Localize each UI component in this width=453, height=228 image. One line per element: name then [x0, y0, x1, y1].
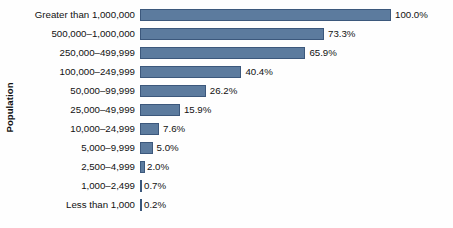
bar-row: 2,500–4,9992.0%	[18, 157, 453, 176]
bar-zone: 5.0%	[140, 138, 453, 157]
category-label: Greater than 1,000,000	[18, 5, 140, 24]
category-label: 500,000–1,000,000	[18, 24, 140, 43]
bar-value-label: 15.9%	[180, 100, 211, 119]
bar-zone: 0.2%	[140, 195, 453, 214]
category-label: 1,000–2,499	[18, 176, 140, 195]
bar-value-label: 7.6%	[159, 119, 185, 138]
bar	[140, 104, 180, 116]
bar	[140, 9, 391, 21]
bar-row: 5,000–9,9995.0%	[18, 138, 453, 157]
bar-value-label: 0.2%	[142, 195, 166, 214]
bar-value-label: 0.7%	[142, 176, 166, 195]
bar-row: 100,000–249,99940.4%	[18, 62, 453, 81]
bar-row: 1,000–2,4990.7%	[18, 176, 453, 195]
category-label: 10,000–24,999	[18, 119, 140, 138]
bar-value-label: 73.3%	[324, 24, 355, 43]
category-label: 5,000–9,999	[18, 138, 140, 157]
bar-zone: 15.9%	[140, 100, 453, 119]
bar	[140, 142, 153, 154]
bar-row: 50,000–99,99926.2%	[18, 81, 453, 100]
bar-row: Less than 1,0000.2%	[18, 195, 453, 214]
y-axis-title-label: Population	[4, 82, 15, 132]
bar-value-label: 5.0%	[153, 138, 179, 157]
bar-zone: 100.0%	[140, 5, 453, 24]
bar-value-label: 40.4%	[241, 62, 272, 81]
bar-row: 250,000–499,99965.9%	[18, 43, 453, 62]
bar-zone: 2.0%	[140, 157, 453, 176]
bar-row: 10,000–24,9997.6%	[18, 119, 453, 138]
bar-zone: 65.9%	[140, 43, 453, 62]
bar-value-label: 65.9%	[305, 43, 336, 62]
bar	[140, 28, 324, 40]
plot-area: Greater than 1,000,000100.0%500,000–1,00…	[18, 5, 453, 223]
bar-value-label: 2.0%	[145, 157, 169, 176]
category-label: 100,000–249,999	[18, 62, 140, 81]
bar	[140, 66, 241, 78]
bar-row: Greater than 1,000,000100.0%	[18, 5, 453, 24]
bar-zone: 73.3%	[140, 24, 453, 43]
category-label: Less than 1,000	[18, 195, 140, 214]
category-label: 2,500–4,999	[18, 157, 140, 176]
bar-zone: 7.6%	[140, 119, 453, 138]
bar	[140, 123, 159, 135]
bar	[140, 85, 206, 97]
bar-zone: 40.4%	[140, 62, 453, 81]
category-label: 25,000–49,999	[18, 100, 140, 119]
category-label: 50,000–99,999	[18, 81, 140, 100]
bar	[140, 47, 305, 59]
bar-value-label: 100.0%	[391, 5, 428, 24]
bar-zone: 26.2%	[140, 81, 453, 100]
category-label: 250,000–499,999	[18, 43, 140, 62]
bar-zone: 0.7%	[140, 176, 453, 195]
bar-row: 25,000–49,99915.9%	[18, 100, 453, 119]
bar-row: 500,000–1,000,00073.3%	[18, 24, 453, 43]
bar-value-label: 26.2%	[206, 81, 237, 100]
y-axis-title: Population	[0, 0, 18, 215]
bar-chart: Population Greater than 1,000,000100.0%5…	[0, 0, 453, 228]
